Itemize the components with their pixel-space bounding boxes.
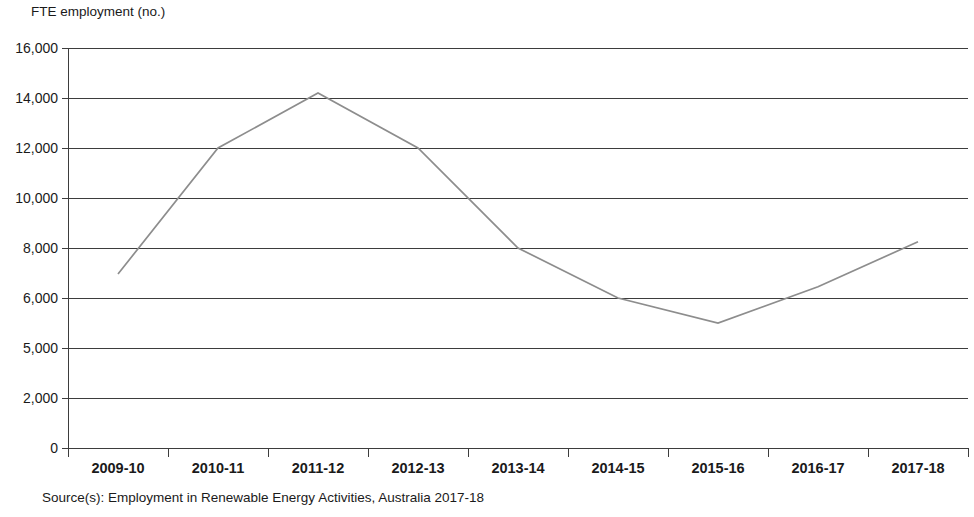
x-axis-tick-label: 2015-16 <box>668 459 768 477</box>
y-axis-tick-label: 2,000 <box>0 391 58 405</box>
gridline <box>68 198 968 199</box>
gridline <box>68 248 968 249</box>
gridline <box>68 448 968 449</box>
x-axis-tick-mark <box>268 448 269 457</box>
x-axis-tick-mark <box>668 448 669 457</box>
y-axis-tick-label: 6,000 <box>0 291 58 305</box>
y-axis-tick-labels: 16,00014,00012,00010,0008,0006,0005,0002… <box>0 48 58 448</box>
y-axis-title: FTE employment (no.) <box>31 4 165 20</box>
x-axis-tick-mark <box>868 448 869 457</box>
gridline <box>68 148 968 149</box>
y-axis-tick-mark <box>62 148 69 149</box>
x-axis-tick-mark <box>468 448 469 457</box>
x-axis-tick-label: 2013-14 <box>468 459 568 477</box>
x-axis-tick-label: 2017-18 <box>868 459 968 477</box>
x-axis-tick-label: 2009-10 <box>68 459 168 477</box>
x-axis-tick-mark <box>568 448 569 457</box>
chart-figure: FTE employment (no.) 16,00014,00012,0001… <box>0 0 974 517</box>
y-axis-tick-label: 0 <box>0 441 58 455</box>
y-axis-tick-label: 5,000 <box>0 341 58 355</box>
gridline <box>68 398 968 399</box>
x-axis-tick-label: 2010-11 <box>168 459 268 477</box>
y-axis-tick-label: 16,000 <box>0 41 58 55</box>
y-axis-tick-mark <box>62 248 69 249</box>
source-note: Source(s): Employment in Renewable Energ… <box>42 489 484 506</box>
y-axis-line <box>68 48 69 448</box>
gridline <box>68 98 968 99</box>
y-axis-tick-label: 14,000 <box>0 91 58 105</box>
x-axis-tick-mark <box>768 448 769 457</box>
y-axis-tick-mark <box>62 98 69 99</box>
x-axis-tick-mark <box>368 448 369 457</box>
x-axis-tick-mark <box>168 448 169 457</box>
gridline <box>68 348 968 349</box>
y-axis-tick-label: 10,000 <box>0 191 58 205</box>
y-axis-tick-label: 8,000 <box>0 241 58 255</box>
x-axis-tick-label: 2014-15 <box>568 459 668 477</box>
y-axis-tick-mark <box>62 198 69 199</box>
x-axis-tick-mark <box>68 448 69 457</box>
gridline <box>68 298 968 299</box>
x-axis-tick-label: 2012-13 <box>368 459 468 477</box>
y-axis-tick-mark <box>62 48 69 49</box>
plot-area <box>68 48 968 448</box>
x-axis-tick-label: 2011-12 <box>268 459 368 477</box>
y-axis-tick-mark <box>62 348 69 349</box>
y-axis-tick-mark <box>62 298 69 299</box>
x-axis-tick-mark <box>968 448 969 457</box>
gridline <box>68 48 968 49</box>
y-axis-tick-mark <box>62 398 69 399</box>
x-axis-tick-label: 2016-17 <box>768 459 868 477</box>
y-axis-tick-label: 12,000 <box>0 141 58 155</box>
